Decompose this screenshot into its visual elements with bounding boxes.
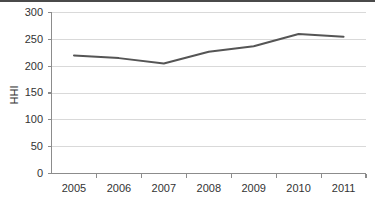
y-axis-title: HHI bbox=[8, 86, 20, 105]
y-tick-label-50: 50 bbox=[31, 140, 43, 152]
y-tick-label-0: 0 bbox=[37, 167, 43, 179]
hhi-data-line bbox=[74, 34, 344, 64]
x-tick-label-2008: 2008 bbox=[197, 182, 221, 194]
y-tick-label-100: 100 bbox=[25, 113, 43, 125]
y-tick-label-200: 200 bbox=[25, 60, 43, 72]
x-tick-label-2011: 2011 bbox=[332, 182, 356, 194]
x-tick-label-2010: 2010 bbox=[286, 182, 310, 194]
line-chart-plot: 300 250 200 150 100 50 0 2005 2006 2007 … bbox=[0, 0, 375, 206]
x-tick-label-2009: 2009 bbox=[241, 182, 265, 194]
gridlines bbox=[52, 13, 367, 147]
y-tick-label-150: 150 bbox=[25, 86, 43, 98]
y-tick-labels: 300 250 200 150 100 50 0 bbox=[25, 6, 43, 179]
x-tick-labels: 2005 2006 2007 2008 2009 2010 2011 bbox=[62, 182, 356, 194]
y-tick-label-300: 300 bbox=[25, 6, 43, 18]
x-tick-label-2006: 2006 bbox=[107, 182, 131, 194]
y-tick-label-250: 250 bbox=[25, 33, 43, 45]
x-tick-label-2007: 2007 bbox=[152, 182, 176, 194]
x-tick-label-2005: 2005 bbox=[62, 182, 86, 194]
chart-figure: 300 250 200 150 100 50 0 2005 2006 2007 … bbox=[0, 0, 375, 206]
